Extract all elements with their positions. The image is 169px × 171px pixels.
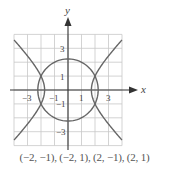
x-tick-label: 1 (79, 93, 84, 103)
x-axis-label: x (140, 83, 146, 95)
x-axis-arrow-icon (129, 87, 138, 94)
y-tick-label: 1 (60, 72, 65, 82)
y-tick-label: 3 (60, 44, 65, 54)
x-tick-label: 3 (106, 93, 111, 103)
y-tick-label: −3 (56, 127, 66, 137)
y-axis-arrow-icon (65, 17, 72, 26)
x-tick-label: −3 (22, 93, 32, 103)
intersection-points-caption: (−2, −1), (−2, 1), (2, −1), (2, 1) (0, 151, 169, 163)
y-axis-label: y (64, 4, 70, 16)
y-tick-label: −1 (56, 99, 66, 109)
coordinate-graph: x y −3 −1 1 3 3 1 −1 −3 (0, 0, 169, 150)
